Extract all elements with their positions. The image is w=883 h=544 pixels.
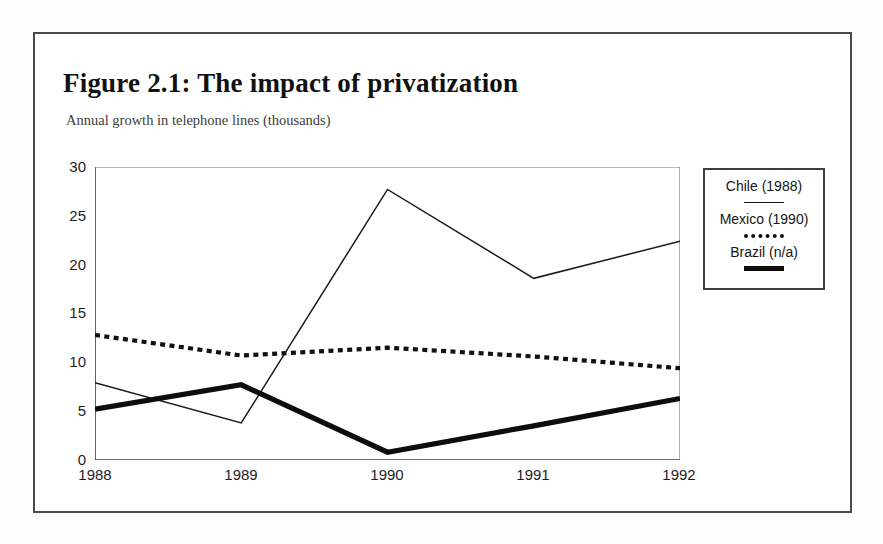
legend-swatch-mexico: [744, 232, 784, 239]
legend-swatch-chile: [744, 199, 784, 206]
series-line-chile: [95, 189, 680, 422]
x-axis-label-1988: 1988: [65, 466, 125, 483]
y-axis-label-25: 25: [46, 207, 86, 224]
x-axis-label-1989: 1989: [211, 466, 271, 483]
legend-label-brazil: Brazil (n/a): [730, 243, 798, 262]
legend-label-chile: Chile (1988): [726, 177, 802, 196]
y-axis-label-30: 30: [46, 158, 86, 175]
x-axis-label-1990: 1990: [357, 466, 417, 483]
figure-subtitle: Annual growth in telephone lines (thousa…: [66, 112, 331, 129]
x-axis-label-1991: 1991: [503, 466, 563, 483]
chart-legend: Chile (1988) Mexico (1990) Brazil (n/a): [703, 168, 825, 290]
y-axis-label-5: 5: [46, 402, 86, 419]
series-line-brazil: [95, 385, 680, 452]
figure-title: Figure 2.1: The impact of privatization: [63, 68, 518, 99]
legend-entry-chile: Chile (1988): [705, 177, 823, 210]
legend-label-mexico: Mexico (1990): [720, 210, 809, 229]
legend-swatch-brazil: [744, 265, 784, 272]
chart-canvas: [95, 167, 680, 460]
plot-area: [95, 167, 680, 460]
y-axis-label-15: 15: [46, 304, 86, 321]
y-axis-label-10: 10: [46, 353, 86, 370]
y-axis-label-20: 20: [46, 256, 86, 273]
legend-entry-brazil: Brazil (n/a): [705, 243, 823, 276]
series-line-mexico: [95, 335, 680, 368]
x-axis-label-1992: 1992: [649, 466, 709, 483]
legend-entry-mexico: Mexico (1990): [705, 210, 823, 243]
